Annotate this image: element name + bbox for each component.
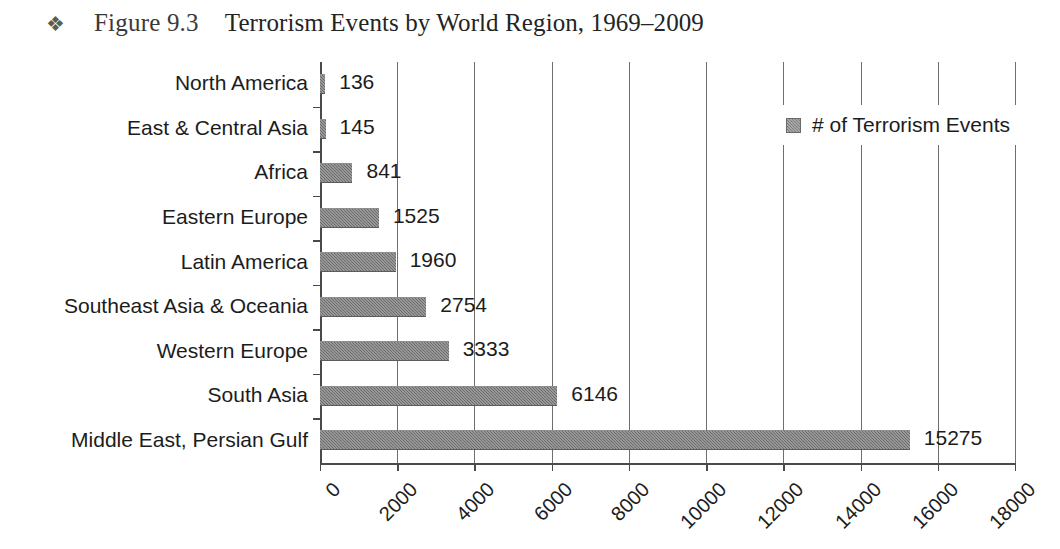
x-axis-tick <box>706 463 707 471</box>
category-label: North America <box>0 71 308 95</box>
category-label: Africa <box>0 160 308 184</box>
x-axis-tick <box>320 463 321 471</box>
bar-value-label: 3333 <box>463 337 510 361</box>
y-axis-tick <box>313 196 320 197</box>
bar-row[interactable]: 2754 <box>320 285 1015 330</box>
y-axis-tick <box>313 151 320 152</box>
x-axis-tick-label: 0 <box>188 478 346 549</box>
x-axis-tick <box>629 463 630 471</box>
y-axis-tick <box>313 107 320 108</box>
x-axis-tick <box>397 463 398 471</box>
y-axis-tick <box>313 329 320 330</box>
y-axis-tick <box>313 374 320 375</box>
bar[interactable] <box>320 119 326 139</box>
bar-value-label: 841 <box>366 159 401 183</box>
category-label: Southeast Asia & Oceania <box>0 294 308 318</box>
x-axis-tick <box>783 463 784 471</box>
figure-caption: Terrorism Events by World Region, 1969–2… <box>225 9 704 37</box>
bar-row[interactable]: 136 <box>320 62 1015 107</box>
figure-title-row: ❖ Figure 9.3 Terrorism Events by World R… <box>0 0 1060 46</box>
category-label: Western Europe <box>0 339 308 363</box>
bar[interactable] <box>320 163 352 183</box>
category-label: Middle East, Persian Gulf <box>0 428 308 452</box>
bar-row[interactable]: 15275 <box>320 418 1015 463</box>
bar-chart: North AmericaEast & Central AsiaAfricaEa… <box>0 46 1060 549</box>
bar-value-label: 1960 <box>410 248 457 272</box>
x-axis-tick <box>552 463 553 471</box>
bar-row[interactable]: 6146 <box>320 374 1015 419</box>
category-label: South Asia <box>0 383 308 407</box>
bar[interactable] <box>320 208 379 228</box>
bar[interactable] <box>320 386 557 406</box>
bar-row[interactable]: 3333 <box>320 329 1015 374</box>
figure-number: Figure 9.3 <box>94 9 199 37</box>
four-diamond-bullet-icon: ❖ <box>46 13 72 34</box>
bar-row[interactable]: 841 <box>320 151 1015 196</box>
category-label: East & Central Asia <box>0 116 308 140</box>
y-axis-tick <box>313 240 320 241</box>
bar-value-label: 136 <box>339 70 374 94</box>
x-axis-line <box>320 463 1016 465</box>
bar-value-label: 145 <box>340 115 375 139</box>
x-axis-tick <box>1015 463 1016 471</box>
bar[interactable] <box>320 341 449 361</box>
bar-value-label: 1525 <box>393 204 440 228</box>
bar[interactable] <box>320 252 396 272</box>
bar[interactable] <box>320 430 910 450</box>
category-label: Latin America <box>0 250 308 274</box>
bar-row[interactable]: 1525 <box>320 196 1015 241</box>
y-axis-tick <box>313 418 320 419</box>
bar[interactable] <box>320 297 426 317</box>
x-axis-tick <box>861 463 862 471</box>
x-axis-tick <box>938 463 939 471</box>
category-label: Eastern Europe <box>0 205 308 229</box>
x-axis-tick <box>474 463 475 471</box>
bar-value-label: 2754 <box>440 293 487 317</box>
bar-value-label: 15275 <box>924 426 982 450</box>
bar[interactable] <box>320 74 325 94</box>
y-axis-tick <box>313 285 320 286</box>
bar-value-label: 6146 <box>571 382 618 406</box>
bar-row[interactable]: 1960 <box>320 240 1015 285</box>
bar-row[interactable]: 145 <box>320 107 1015 152</box>
